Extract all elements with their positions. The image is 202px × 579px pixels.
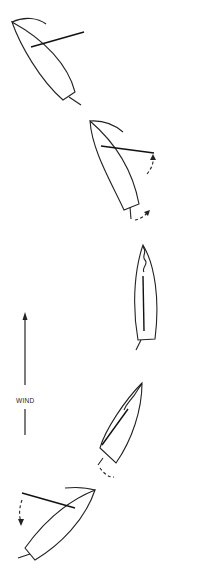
boat-5-boom-arrowhead bbox=[18, 519, 24, 526]
boat-4-boom bbox=[102, 409, 128, 445]
boat-2-boom bbox=[101, 146, 154, 153]
boat-1-hull bbox=[12, 22, 75, 100]
boat-2-hull bbox=[90, 121, 139, 210]
boat-4-hull bbox=[100, 383, 142, 463]
boat-5 bbox=[18, 487, 95, 560]
boat-3-boom bbox=[143, 276, 144, 331]
wind-arrowhead-icon bbox=[23, 312, 28, 320]
boat-1-rudder bbox=[69, 97, 81, 105]
boat-4-rudder-motion-arrow bbox=[100, 468, 114, 477]
boat-2-sail bbox=[90, 121, 123, 132]
tacking-diagram: WIND bbox=[0, 0, 202, 579]
boat-1-sail bbox=[12, 18, 46, 24]
boat-4 bbox=[98, 383, 142, 477]
boat-2-boom-arrowhead bbox=[150, 154, 156, 160]
boat-5-sail bbox=[65, 487, 95, 490]
boat-2-rudder bbox=[130, 207, 131, 219]
boat-3-rudder bbox=[136, 340, 141, 350]
boat-5-hull bbox=[25, 490, 95, 560]
boat-2 bbox=[90, 121, 156, 220]
boat-5-boom-motion-arrow bbox=[20, 500, 22, 522]
boat-1 bbox=[12, 18, 84, 105]
boat-5-rudder bbox=[18, 554, 30, 558]
wind-label: WIND bbox=[16, 397, 35, 404]
boat-3 bbox=[135, 245, 157, 350]
wind-indicator: WIND bbox=[16, 312, 35, 435]
boat-5-boom bbox=[22, 493, 75, 508]
boat-4-rudder bbox=[98, 458, 103, 465]
boat-3-hull bbox=[135, 245, 157, 340]
